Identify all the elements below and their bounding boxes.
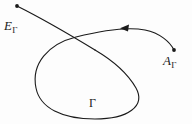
curve-loop-path [35,29,174,119]
curve-entry-path [17,6,95,50]
entry-point-symbol: E [4,18,12,33]
exit-point-label: AΓ [163,52,177,70]
entry-endpoint-dot [15,4,19,8]
entry-point-subscript: Γ [12,25,18,35]
exit-point-symbol: A [163,53,171,68]
entry-point-label: EΓ [4,17,18,35]
orientation-arrowhead-icon [120,25,129,32]
exit-point-subscript: Γ [171,60,177,70]
curve-label: Γ [89,97,96,109]
curve-figure: EΓ AΓ Γ [0,0,192,124]
